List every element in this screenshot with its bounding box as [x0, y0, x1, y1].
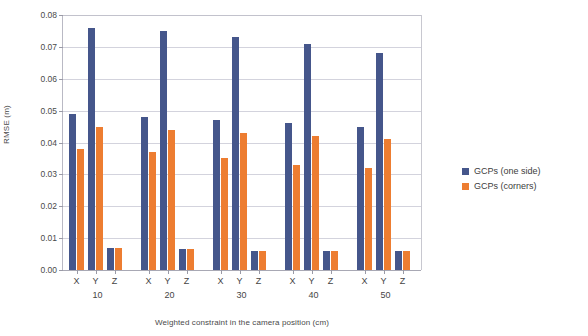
- bar[interactable]: [293, 165, 300, 270]
- y-tick-label: 0.02: [40, 201, 57, 211]
- y-tick-label: 0.05: [40, 106, 57, 116]
- x-tick-mark: [187, 270, 188, 274]
- x-subcategory-label: Z: [328, 276, 334, 286]
- bar[interactable]: [323, 251, 330, 270]
- x-group-label: 10: [92, 290, 102, 300]
- bar[interactable]: [395, 251, 402, 270]
- legend-item[interactable]: GCPs (one side): [462, 166, 541, 176]
- bar[interactable]: [213, 120, 220, 270]
- bar-subgroup: [304, 15, 320, 270]
- bar[interactable]: [232, 37, 239, 270]
- x-subcategory-label: Y: [308, 276, 314, 286]
- x-tick-mark: [293, 270, 294, 274]
- x-tick-mark: [403, 270, 404, 274]
- x-subcategory-label: Z: [256, 276, 262, 286]
- bar[interactable]: [179, 249, 186, 270]
- bar-subgroup: [376, 15, 392, 270]
- x-subcategory-label: Z: [184, 276, 190, 286]
- bar-subgroup: [88, 15, 104, 270]
- x-subcategory-label: X: [289, 276, 295, 286]
- chart-legend: GCPs (one side) GCPs (corners): [462, 166, 541, 196]
- bar[interactable]: [141, 117, 148, 270]
- y-tick-label: 0.07: [40, 42, 57, 52]
- gridline: [63, 270, 421, 271]
- plot-area: 0.000.010.020.030.040.050.060.070.08XYZ1…: [62, 15, 422, 270]
- bar-group: [279, 15, 351, 270]
- bar[interactable]: [240, 133, 247, 270]
- bar-subgroup: [323, 15, 339, 270]
- x-tick-mark: [115, 270, 116, 274]
- x-group-label: 30: [236, 290, 246, 300]
- bar[interactable]: [160, 31, 167, 270]
- bar-subgroup: [395, 15, 411, 270]
- x-group-label: 50: [380, 290, 390, 300]
- bar[interactable]: [357, 127, 364, 270]
- x-tick-mark: [149, 270, 150, 274]
- x-subcategory-label: Y: [164, 276, 170, 286]
- x-group-label: 40: [308, 290, 318, 300]
- bar-subgroup: [179, 15, 195, 270]
- x-tick-mark: [312, 270, 313, 274]
- bar[interactable]: [115, 248, 122, 270]
- bar-subgroup: [141, 15, 157, 270]
- x-axis-title: Weighted constraint in the camera positi…: [62, 318, 422, 327]
- x-tick-mark: [259, 270, 260, 274]
- bar[interactable]: [168, 130, 175, 270]
- x-tick-mark: [365, 270, 366, 274]
- y-tick-label: 0.00: [40, 265, 57, 275]
- x-tick-mark: [240, 270, 241, 274]
- x-tick-mark: [331, 270, 332, 274]
- bar[interactable]: [403, 251, 410, 270]
- bar-subgroup: [251, 15, 267, 270]
- bar[interactable]: [376, 53, 383, 270]
- legend-swatch-icon: [462, 183, 469, 190]
- x-tick-mark: [221, 270, 222, 274]
- legend-swatch-icon: [462, 168, 469, 175]
- bar-subgroup: [285, 15, 301, 270]
- x-subcategory-label: X: [145, 276, 151, 286]
- y-tick-mark: [59, 270, 63, 271]
- x-subcategory-label: Z: [112, 276, 118, 286]
- bar[interactable]: [384, 139, 391, 270]
- y-tick-label: 0.04: [40, 138, 57, 148]
- bar-subgroup: [69, 15, 85, 270]
- bar[interactable]: [187, 249, 194, 270]
- bar-group: [351, 15, 423, 270]
- legend-item-label: GCPs (one side): [474, 166, 541, 176]
- x-subcategory-label: Y: [236, 276, 242, 286]
- x-subcategory-label: Y: [380, 276, 386, 286]
- y-tick-label: 0.01: [40, 233, 57, 243]
- x-group-label: 20: [164, 290, 174, 300]
- bar[interactable]: [107, 248, 114, 270]
- bar-group: [63, 15, 135, 270]
- chart-figure: RMSE (m) 0.000.010.020.030.040.050.060.0…: [0, 0, 588, 336]
- bar-subgroup: [160, 15, 176, 270]
- bar[interactable]: [331, 251, 338, 270]
- x-subcategory-label: X: [217, 276, 223, 286]
- y-axis-title: RMSE (m): [2, 44, 11, 144]
- x-tick-mark: [96, 270, 97, 274]
- bar[interactable]: [259, 251, 266, 270]
- bar-group: [135, 15, 207, 270]
- x-subcategory-label: Z: [400, 276, 406, 286]
- bar[interactable]: [88, 28, 95, 270]
- bar[interactable]: [69, 114, 76, 270]
- x-subcategory-label: X: [73, 276, 79, 286]
- bar[interactable]: [149, 152, 156, 270]
- bar[interactable]: [312, 136, 319, 270]
- bar-subgroup: [213, 15, 229, 270]
- bar[interactable]: [221, 158, 228, 270]
- bar[interactable]: [77, 149, 84, 270]
- x-subcategory-label: X: [361, 276, 367, 286]
- legend-item[interactable]: GCPs (corners): [462, 181, 541, 191]
- y-tick-label: 0.06: [40, 74, 57, 84]
- y-tick-label: 0.08: [40, 10, 57, 20]
- bar-subgroup: [357, 15, 373, 270]
- bar[interactable]: [365, 168, 372, 270]
- y-tick-label: 0.03: [40, 169, 57, 179]
- x-subcategory-label: Y: [92, 276, 98, 286]
- bar[interactable]: [285, 123, 292, 270]
- bar[interactable]: [304, 44, 311, 270]
- bar[interactable]: [251, 251, 258, 270]
- bar[interactable]: [96, 127, 103, 270]
